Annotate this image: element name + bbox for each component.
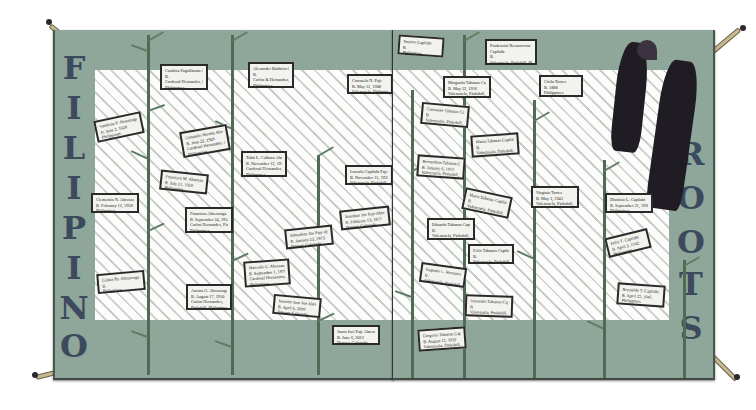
family-member-card: Jason Joel Paje AbrenzugaB. June 6, 2012… [332, 325, 380, 345]
family-member-card: Jimiros CapilahtB.Philippines [397, 34, 444, 57]
title-letter: S [676, 312, 706, 344]
family-member-card: Cirilo TorresB. 1888Philippines [539, 75, 583, 97]
title-letter: O [59, 330, 89, 362]
family-member-card: Lorcolo Capilaht PajeB. November 15, 193… [345, 165, 393, 185]
family-member-card: Celina Ph. AbrenzugaB.Philippines [96, 270, 146, 294]
family-member-card: Alexander Baldwin CalbacaB.Carlos & Hern… [248, 62, 294, 88]
title-letter: P [59, 212, 89, 244]
title-letter: O [676, 226, 706, 258]
scrapbook-page-right: R O O T S Jimiros CapilahtB.Philippines … [392, 30, 715, 380]
family-member-card: Clementia N. AbrenzugaB. February 12, 19… [91, 193, 139, 213]
bamboo-stalk [231, 35, 234, 375]
title-letter: I [59, 172, 89, 204]
family-member-card: Bernardino Tabanas CapilahtB. January 6,… [416, 154, 465, 179]
family-member-card: Margarita Tabanas CapilahtB. May 12, 191… [443, 76, 491, 98]
corner-pin-top-right [740, 25, 746, 31]
fan-icon [637, 40, 657, 60]
family-member-card: Virginia TorresB. May 3, 1943Valenzuela,… [531, 186, 579, 208]
family-member-card: Reynaldo T. CapilahtB. April 25, 1945Phi… [616, 282, 665, 307]
bamboo-stalk [147, 35, 150, 375]
bamboo-stalk [411, 90, 414, 378]
family-member-card: Dionisio L. CapilahtB. September 21, 192… [605, 193, 653, 213]
family-member-card: Gregorio Tabanas CapilahtB. August 12, 1… [417, 326, 466, 351]
title-letter: I [59, 252, 89, 284]
family-member-card: Johnathon Joe Paje AbrenzugaB. January 2… [284, 225, 334, 250]
family-member-card: Eduardo Tabanas CapilahtB.Valenzuela, Pi… [427, 218, 475, 240]
corner-pin-top-left [46, 19, 52, 25]
family-member-card: Francisca M. AbrenzugaB. July 21, 1959Ph… [159, 170, 209, 195]
title-letter: T [676, 268, 706, 300]
family-member-card: Jennifer Ann Joe AbrenzugaB. April 6, 20… [272, 294, 322, 318]
bamboo-stalk [533, 100, 536, 378]
title-letter: F [59, 52, 89, 84]
bamboo-leaf [131, 330, 149, 338]
corner-pin-bottom-right [734, 374, 740, 380]
title-letter: L [59, 132, 89, 164]
title-letter: N [59, 292, 89, 324]
bamboo-leaf [587, 320, 604, 329]
family-member-card: Maria Tabanas CapilahtB.Valenzuela, Pink… [470, 132, 519, 157]
family-member-card: Constante Tabanas CapilahtB.Valenzuela, … [420, 102, 470, 128]
family-member-card: Francisco AbrenzugaB. September 24, 1954… [185, 207, 233, 233]
family-member-card: Marcello C. AbrenzugaB. September 1, 197… [243, 258, 291, 287]
family-member-card: Amorsito Tabanas CapilahtB.Valenzuela, P… [465, 294, 514, 318]
bamboo-leaf [131, 44, 149, 52]
title-letter: I [59, 92, 89, 124]
bamboo-leaf [215, 340, 233, 348]
bamboo-stalk [317, 155, 320, 375]
bamboo-stalk [683, 260, 686, 378]
family-member-card: Aurora G. AbrenzugaB. August 17, 1950Car… [186, 284, 232, 310]
family-member-card: Tobit L. Calbaca AbrenzugaB. November 12… [241, 151, 287, 177]
family-member-card: Consuelo N. PajeB. May 12, 1908Valenzuel… [347, 74, 393, 94]
family-member-card: Felix Tabanas CapilahtB.Valenzuela, Pink… [468, 244, 514, 264]
family-member-card: Prudencial Ressurccion TabanasCapilahtB.… [485, 39, 537, 65]
scrapbook-page-left: F I L I P I N O Catalina Pagalilauan Abr… [53, 30, 394, 380]
corner-pin-bottom-left [32, 372, 38, 378]
family-member-card: Catalina Pagalilauan AbrenzugaB.Cardenal… [160, 64, 208, 90]
